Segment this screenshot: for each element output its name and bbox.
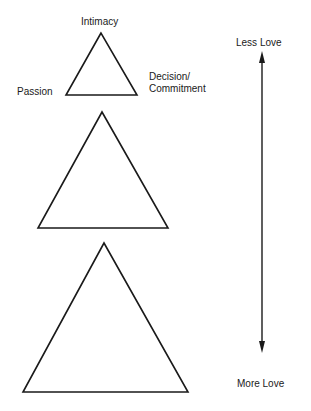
commitment-label: Commitment xyxy=(149,83,206,95)
love-triangles-diagram xyxy=(0,0,311,411)
more-love-label: More Love xyxy=(237,378,284,390)
intimacy-label: Intimacy xyxy=(81,16,118,28)
medium-triangle xyxy=(38,112,168,228)
double-arrow-icon xyxy=(259,51,265,353)
passion-label: Passion xyxy=(17,86,53,98)
less-love-label: Less Love xyxy=(236,37,282,49)
decision-label: Decision/ xyxy=(149,71,190,83)
large-triangle xyxy=(23,243,188,392)
small-triangle xyxy=(66,33,137,95)
